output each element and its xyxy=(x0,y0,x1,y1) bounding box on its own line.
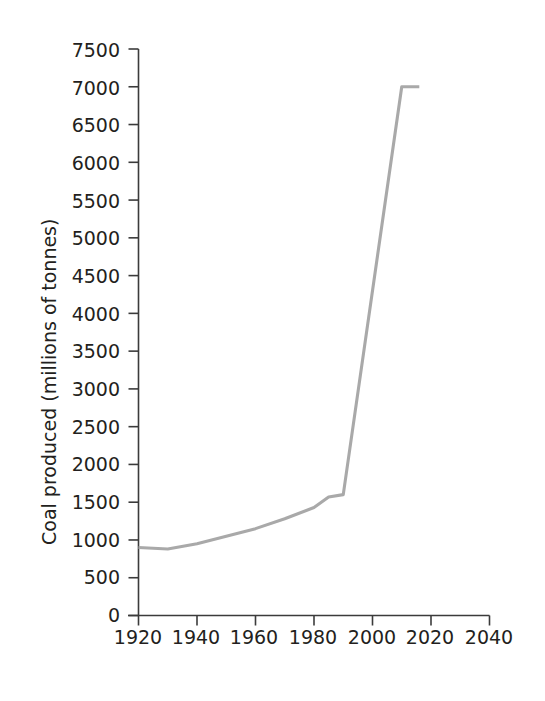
data-series-line xyxy=(139,87,420,549)
plot-area xyxy=(0,0,545,701)
x-tick-marks xyxy=(139,616,490,626)
y-tick-marks xyxy=(129,49,139,616)
chart-figure: Coal produced (millions of tonnes) 7500 … xyxy=(0,0,545,701)
